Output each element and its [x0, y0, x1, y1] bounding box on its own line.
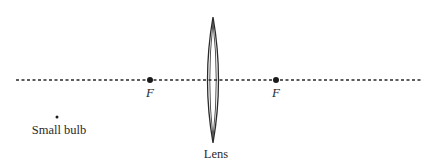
lens-label: Lens — [204, 148, 228, 161]
focal-label-right: F — [272, 86, 280, 99]
focal-label-left: F — [146, 86, 154, 99]
lens-diagram: F F Small bulb Lens — [0, 0, 438, 164]
focal-point-right-icon — [273, 77, 279, 83]
diagram-canvas — [0, 0, 438, 164]
small-bulb-label: Small bulb — [32, 124, 87, 137]
focal-point-left-icon — [147, 77, 153, 83]
small-bulb-icon — [56, 116, 59, 119]
